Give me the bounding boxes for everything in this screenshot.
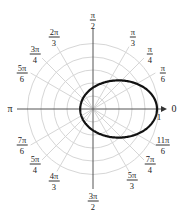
angle-label-5pi-over-6: 5π6: [17, 64, 28, 83]
angle-label-pi-over-6: π6: [160, 64, 166, 83]
angle-label-3pi-over-4: 3π4: [30, 45, 41, 64]
angle-label-0: 0: [172, 103, 177, 114]
angle-label-pi-over-2: π2: [90, 11, 96, 30]
radial-tick-label-1: 1: [157, 112, 162, 122]
angle-label-7pi-over-6: 7π6: [17, 136, 28, 155]
angle-label-5pi-over-4: 5π4: [30, 155, 41, 174]
angle-label-3pi-over-2: 3π2: [88, 192, 99, 211]
angle-label-pi-over-3: π3: [130, 28, 136, 47]
angle-label-2pi-over-3: 2π3: [49, 28, 60, 47]
angle-label-pi: π: [7, 103, 12, 114]
angle-label-7pi-over-4: 7π4: [145, 155, 156, 174]
axis-arrow-icon: [161, 106, 167, 112]
angle-label-5pi-over-3: 5π3: [127, 171, 138, 190]
angle-label-4pi-over-3: 4π3: [49, 172, 60, 191]
polar-plot: [0, 0, 182, 215]
angle-label-pi-over-4: π4: [147, 45, 153, 64]
angle-label-11pi-over-6: 11π6: [156, 136, 170, 155]
